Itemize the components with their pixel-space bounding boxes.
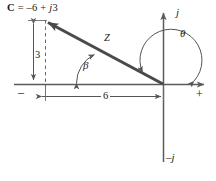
- angle-theta-label: θ: [180, 28, 185, 39]
- real-axis-positive-label: +: [196, 88, 203, 100]
- angle-theta-arc: [140, 29, 202, 81]
- magnitude-label-z: Z: [104, 33, 110, 44]
- imaginary-axis-positive-label: j: [176, 7, 179, 18]
- complex-number-label: C = –6 + j3: [7, 3, 58, 14]
- complex-plane-diagram: C = –6 + j3 j –j + – Z β θ 3 6: [0, 0, 216, 181]
- real-axis-negative-label: –: [18, 86, 24, 98]
- real-part-value: –6: [27, 2, 38, 13]
- theta-arc-path: [140, 29, 202, 81]
- imag-dimension-label: 3: [35, 50, 40, 61]
- plus-sign: +: [40, 2, 46, 13]
- equals-sign: =: [18, 2, 24, 13]
- real-dimension-label: 6: [101, 91, 110, 102]
- complex-variable-c: C: [7, 2, 15, 13]
- imaginary-axis-negative-label: –j: [166, 152, 175, 163]
- angle-beta-label: β: [83, 60, 88, 71]
- imaginary-part-value: 3: [52, 2, 57, 13]
